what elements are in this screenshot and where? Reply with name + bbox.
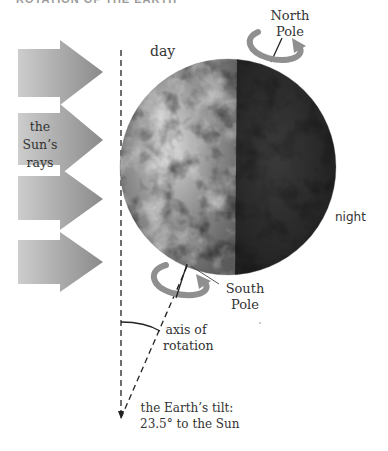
sun-rays-label: the Sun’s rays	[18, 118, 62, 172]
sun-rays-label-line2: rays	[18, 154, 62, 172]
earth-globe	[118, 55, 340, 280]
south-pole-label-line2: Pole	[225, 297, 265, 313]
south-pole-label: South Pole	[225, 281, 265, 313]
earth-rotation-diagram	[0, 0, 388, 451]
tilt-angle-arc	[121, 322, 160, 331]
sun-ray-arrow-3	[18, 168, 103, 230]
north-pole-label-line2: Pole	[270, 24, 310, 40]
sun-ray-arrow-1	[18, 40, 103, 105]
sun-ray-arrow-4	[18, 232, 103, 292]
axis-label-line1: axis of	[163, 322, 209, 338]
earth-tilt-label: the Earth’s tilt: 23.5° to the Sun	[140, 400, 234, 432]
north-pole-label: North Pole	[270, 8, 310, 40]
day-label: day	[150, 43, 175, 59]
night-label: night	[335, 209, 366, 225]
sun-rays-label-line1: the Sun’s	[18, 118, 62, 154]
axis-label-line2: rotation	[163, 338, 209, 354]
tilt-label-line2: 23.5° to the Sun	[140, 416, 234, 432]
south-pole-label-line1: South	[225, 281, 265, 297]
north-pole-label-line1: North	[270, 8, 310, 24]
axis-of-rotation-label: axis of rotation	[163, 322, 209, 354]
tilt-label-line1: the Earth’s tilt:	[140, 400, 234, 416]
